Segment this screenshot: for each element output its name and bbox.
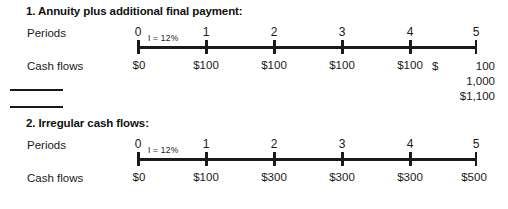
section-2-period-5: 5 [456, 137, 496, 151]
section-1-axis-line [137, 46, 477, 49]
section-1-cashflow-0: $0 [107, 59, 171, 71]
section-1-tick-5 [475, 40, 478, 54]
section-2-cashflow-0: $0 [107, 171, 171, 183]
section-1-timeline-axis [137, 46, 477, 49]
section-2-period-2: 2 [254, 137, 294, 151]
section-2-heading: 2. Irregular cash flows: [26, 117, 149, 129]
section-2-cashflow-1: $100 [174, 171, 238, 183]
section-2-cashflow-2: $300 [242, 171, 306, 183]
section-2-tick-5 [475, 152, 478, 166]
section-2-period-3: 3 [322, 137, 362, 151]
section-1-tick-0 [137, 40, 140, 54]
section-1-period-5: 5 [456, 25, 496, 39]
section-2-period-1: 1 [186, 137, 226, 151]
section-1-final-payment-summation: $ 100 1,000 $1,100 [432, 59, 496, 104]
section-2-tick-1 [205, 152, 208, 166]
section-1-periods-label: Periods [27, 27, 66, 39]
section-2-cashflow-5: $500 [442, 171, 506, 183]
section-2-cashflow-3: $300 [310, 171, 374, 183]
section-1-cashflow-2: $100 [242, 59, 306, 71]
section-2-cashflow-4: $300 [378, 171, 442, 183]
section-2-tick-4 [409, 152, 412, 166]
section-1-period-3: 3 [322, 25, 362, 39]
section-2-tick-2 [273, 152, 276, 166]
summation-subtotal-rule [10, 89, 63, 91]
section-1-period-0: 0 [118, 25, 158, 39]
section-1-cashflows-label: Cash flows [27, 60, 83, 72]
summation-line-annuity: $ 100 [432, 59, 496, 74]
summation-line-total: $1,100 [432, 89, 496, 104]
section-2-cashflows-label: Cash flows [27, 172, 83, 184]
section-2-tick-3 [341, 152, 344, 166]
section-1-period-1: 1 [186, 25, 226, 39]
summation-line-principal: 1,000 [432, 74, 496, 89]
section-2-axis-line [137, 158, 477, 161]
section-2-periods-label: Periods [27, 139, 66, 151]
section-1-tick-4 [409, 40, 412, 54]
section-1-tick-3 [341, 40, 344, 54]
section-2-timeline-axis [137, 158, 477, 161]
section-1-heading: 1. Annuity plus additional final payment… [26, 5, 243, 17]
section-1-tick-1 [205, 40, 208, 54]
section-1-cashflow-1: $100 [174, 59, 238, 71]
section-2-period-0: 0 [118, 137, 158, 151]
summation-annuity-amount: 100 [476, 59, 495, 74]
section-2-tick-0 [137, 152, 140, 166]
summation-total-rule [10, 106, 63, 108]
section-2-period-4: 4 [390, 137, 430, 151]
section-1-tick-2 [273, 40, 276, 54]
section-1-period-2: 2 [254, 25, 294, 39]
summation-principal-amount: 1,000 [466, 74, 495, 89]
summation-total-amount: $1,100 [460, 89, 495, 104]
section-1-cashflow-3: $100 [310, 59, 374, 71]
section-1-period-4: 4 [390, 25, 430, 39]
summation-currency-symbol: $ [432, 59, 438, 74]
